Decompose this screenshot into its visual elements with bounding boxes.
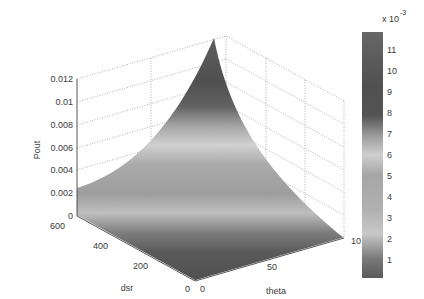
svg-text:0: 0 [185,284,190,294]
svg-text:0.006: 0.006 [50,143,73,153]
surface [77,38,344,281]
svg-text:600: 600 [50,221,65,231]
svg-text:0.004: 0.004 [50,165,73,175]
svg-text:50: 50 [267,262,277,272]
svg-text:9: 9 [387,87,392,97]
svg-text:0.002: 0.002 [50,188,73,198]
svg-text:400: 400 [93,241,108,251]
svg-text:0.008: 0.008 [50,120,73,130]
svg-text:5: 5 [387,171,392,181]
y-axis-label: dsr [121,283,134,293]
surface-plot: 0 0.002 0.004 0.006 0.008 0.01 0.012 Pou… [0,0,424,299]
svg-text:8: 8 [387,108,392,118]
svg-text:0.01: 0.01 [55,97,73,107]
z-ticks: 0 0.002 0.004 0.006 0.008 0.01 0.012 [50,74,73,221]
svg-text:10: 10 [387,66,397,76]
svg-text:-3: -3 [400,9,406,16]
svg-text:4: 4 [387,192,392,202]
svg-text:10: 10 [351,236,361,246]
z-axis-label: Pout [32,140,42,159]
svg-text:0: 0 [200,284,205,294]
svg-text:11: 11 [387,45,396,55]
svg-text:7: 7 [387,129,392,139]
svg-text:0.012: 0.012 [50,74,73,84]
svg-text:x 10: x 10 [382,14,399,24]
svg-text:2: 2 [387,234,392,244]
colorbar-ticks: 11 10 9 8 7 6 5 4 3 2 1 [387,45,397,265]
svg-text:0: 0 [68,211,73,221]
svg-text:3: 3 [387,213,392,223]
colorbar: x 10 -3 11 10 9 8 7 6 5 4 3 2 1 [362,9,406,278]
svg-text:200: 200 [133,261,148,271]
svg-text:6: 6 [387,150,392,160]
x-axis-label: theta [266,286,286,296]
svg-text:1: 1 [387,255,392,265]
